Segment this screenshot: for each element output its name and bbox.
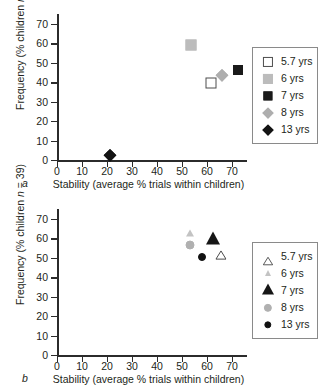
legend-item-6-yrs: 6 yrs <box>258 265 311 282</box>
x-tick-label: 50 <box>170 166 194 177</box>
data-point-13-yrs <box>103 149 115 161</box>
y-tick <box>51 121 57 122</box>
x-tick-label: 40 <box>145 361 169 372</box>
x-axis-line-b <box>57 355 247 357</box>
y-tick <box>51 24 57 25</box>
data-point-6-yrs <box>186 229 194 236</box>
data-point-5-7-yrs <box>205 78 216 89</box>
x-tick-label: 20 <box>95 361 119 372</box>
legend-item-5-7-yrs: 5.7 yrs <box>258 248 311 265</box>
y-tick-label: 20 <box>0 311 48 322</box>
x-tick-label: 70 <box>220 361 244 372</box>
y-tick <box>51 336 57 337</box>
legend-marker-icon <box>258 316 278 333</box>
legend-label: 8 yrs <box>278 107 304 118</box>
y-tick-label: 0 <box>0 350 48 361</box>
plot-area-b <box>57 211 247 355</box>
y-tick-label: 60 <box>0 38 48 49</box>
data-point-7-yrs <box>206 231 220 244</box>
legend-label: 5.7 yrs <box>278 56 313 67</box>
x-axis-line-a <box>57 160 247 162</box>
x-tick-label: 10 <box>70 361 94 372</box>
legend-label: 6 yrs <box>278 268 304 279</box>
legend-label: 13 yrs <box>278 124 310 135</box>
data-point-13-yrs <box>198 253 206 261</box>
legend-marker-icon <box>258 299 278 316</box>
y-tick <box>51 102 57 103</box>
legend-label: 13 yrs <box>278 319 310 330</box>
y-tick-label: 10 <box>0 136 48 147</box>
legend-item-5-7-yrs: 5.7 yrs <box>258 53 311 70</box>
legend-label: 7 yrs <box>278 285 304 296</box>
x-tick-label: 0 <box>45 361 69 372</box>
x-axis-label-b: Stability (average % trials within child… <box>36 374 261 385</box>
data-point-5-7-yrs <box>263 56 273 66</box>
legend-marker-icon <box>258 265 278 282</box>
x-tick-label: 0 <box>45 166 69 177</box>
data-point-7-yrs <box>263 91 272 100</box>
legend-marker-icon <box>258 121 278 138</box>
legend-item-7-yrs: 7 yrs <box>258 87 311 104</box>
y-tick-label: 30 <box>0 292 48 303</box>
data-point-6-yrs <box>185 40 196 51</box>
y-tick-label: 30 <box>0 97 48 108</box>
legend-label: 5.7 yrs <box>278 251 313 262</box>
x-tick-label: 70 <box>220 166 244 177</box>
legend-marker-icon <box>258 87 278 104</box>
x-tick-label: 60 <box>195 166 219 177</box>
legend-b: 5.7 yrs6 yrs7 yrs8 yrs13 yrs <box>252 242 318 339</box>
data-point-5-7-yrs <box>215 246 227 256</box>
y-tick <box>51 297 57 298</box>
plot-area-a <box>57 16 247 160</box>
y-tick <box>51 141 57 142</box>
y-tick-label: 60 <box>0 233 48 244</box>
x-tick-label: 60 <box>195 361 219 372</box>
data-point-5-7-yrs <box>263 252 274 261</box>
x-tick-label: 50 <box>170 361 194 372</box>
legend-item-13-yrs: 13 yrs <box>258 121 311 138</box>
data-point-13-yrs <box>262 124 273 135</box>
x-tick-label: 40 <box>145 166 169 177</box>
data-point-13-yrs <box>264 321 271 328</box>
legend-marker-icon <box>258 248 278 265</box>
legend-marker-icon <box>258 282 278 299</box>
legend-item-6-yrs: 6 yrs <box>258 70 311 87</box>
x-tick-label: 20 <box>95 166 119 177</box>
data-point-6-yrs <box>265 270 271 276</box>
legend-marker-icon <box>258 104 278 121</box>
legend-label: 8 yrs <box>278 302 304 313</box>
data-point-8-yrs <box>185 241 194 250</box>
legend-a: 5.7 yrs6 yrs7 yrs8 yrs13 yrs <box>252 47 318 144</box>
y-tick-label: 40 <box>0 77 48 88</box>
legend-label: 7 yrs <box>278 90 304 101</box>
chart-panel-b: Frequency (% children n = 39) Stability … <box>0 195 323 390</box>
y-tick-label: 70 <box>0 19 48 30</box>
legend-item-13-yrs: 13 yrs <box>258 316 311 333</box>
x-tick-label: 30 <box>120 361 144 372</box>
data-point-8-yrs <box>264 303 272 311</box>
y-tick-label: 70 <box>0 214 48 225</box>
panel-letter-b: b <box>22 372 28 384</box>
chart-panel-a: Frequency (% children n = 39) Stability … <box>0 0 323 195</box>
legend-label: 6 yrs <box>278 73 304 84</box>
y-tick-label: 20 <box>0 116 48 127</box>
data-point-7-yrs <box>262 284 274 295</box>
y-tick-label: 50 <box>0 253 48 264</box>
y-tick <box>51 82 57 83</box>
data-point-7-yrs <box>233 65 243 75</box>
data-point-8-yrs <box>216 69 228 81</box>
legend-marker-icon <box>258 70 278 87</box>
legend-marker-icon <box>258 53 278 70</box>
legend-item-7-yrs: 7 yrs <box>258 282 311 299</box>
y-tick <box>51 219 57 220</box>
y-tick <box>51 63 57 64</box>
data-point-6-yrs <box>263 73 273 83</box>
y-tick-label: 40 <box>0 272 48 283</box>
y-tick <box>51 238 57 239</box>
y-tick-label: 10 <box>0 331 48 342</box>
y-tick <box>51 316 57 317</box>
x-axis-label-a: Stability (average % trials within child… <box>36 179 261 190</box>
y-tick-label: 50 <box>0 58 48 69</box>
data-point-8-yrs <box>262 107 273 118</box>
x-tick-label: 10 <box>70 166 94 177</box>
